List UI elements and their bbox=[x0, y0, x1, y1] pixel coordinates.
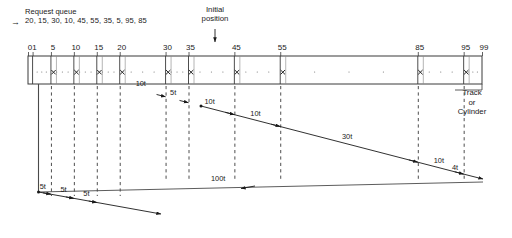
axis-tick-35: 35 bbox=[181, 43, 201, 52]
axis-tick-20: 20 bbox=[112, 43, 132, 52]
axis-tick-5: 5 bbox=[43, 43, 63, 52]
axis-tick-15: 15 bbox=[89, 43, 109, 52]
track-bar bbox=[28, 56, 482, 84]
axis-tick-99: 99 bbox=[474, 43, 494, 52]
axis-tick-45: 45 bbox=[226, 43, 246, 52]
axis-tick-55: 55 bbox=[272, 43, 292, 52]
axis-tick-85: 85 bbox=[410, 43, 430, 52]
seek-label-desc-4: 30t bbox=[342, 132, 352, 141]
axis-tick-95: 95 bbox=[456, 43, 476, 52]
seek-label-asc-0: 5t bbox=[40, 182, 46, 191]
seek-label-desc-0: 10t bbox=[136, 79, 146, 88]
ascending-service-path bbox=[39, 192, 162, 214]
seek-label-desc-1: 5t bbox=[170, 88, 176, 97]
seek-label-final: 4t bbox=[452, 163, 458, 172]
axis-tick-1: 1 bbox=[25, 43, 45, 52]
seek-label-asc-2: 5t bbox=[83, 189, 89, 198]
seek-label-asc-1: 5t bbox=[60, 185, 66, 194]
dashed-guides-group bbox=[51, 86, 464, 196]
disk-scheduling-diagram bbox=[0, 0, 512, 238]
seek-label-return: 100t bbox=[211, 174, 225, 183]
seek-label-desc-5: 10t bbox=[434, 156, 444, 165]
return-sweep-path bbox=[39, 182, 484, 192]
axis-tick-30: 30 bbox=[158, 43, 178, 52]
axis-title-leader bbox=[455, 84, 482, 90]
diagram-canvas: → Request queue 20, 15, 30, 10, 45, 55, … bbox=[0, 0, 512, 238]
seek-label-desc-2: 10t bbox=[204, 97, 214, 106]
axis-tick-10: 10 bbox=[66, 43, 86, 52]
descending-sweep-path bbox=[201, 106, 483, 179]
seek-label-desc-3: 10t bbox=[250, 109, 260, 118]
